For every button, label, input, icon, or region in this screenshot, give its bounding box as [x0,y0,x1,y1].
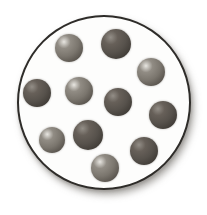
particle-dark [73,120,103,150]
particle-dark [23,79,51,107]
particle-light [65,77,93,105]
particle-dark [149,101,177,129]
particle-dark [104,88,132,116]
particle-diagram [0,0,207,215]
particle-light [55,34,83,62]
particle-dark [130,137,158,165]
particle-dark [101,29,131,59]
particle-light [91,154,119,182]
particle-light [39,127,65,153]
particle-light [137,58,165,86]
